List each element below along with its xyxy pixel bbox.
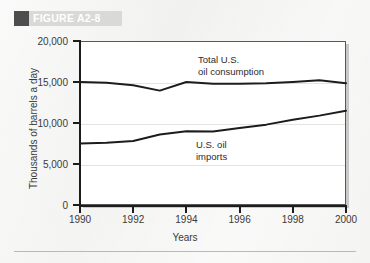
y-axis-tick-label: 0: [62, 200, 68, 211]
y-axis-tick-label: 20,000: [37, 36, 68, 47]
y-axis-tick: [73, 40, 80, 42]
x-axis-tick: [132, 207, 134, 213]
x-axis-title: Years: [0, 232, 370, 243]
y-axis-tick-label: 15,000: [37, 77, 68, 88]
chart-container: 05,00010,00015,00020,000 199019921994199…: [0, 0, 370, 263]
y-axis-title: Thousands of barrels a day: [28, 49, 39, 209]
x-axis-tick-label: 2000: [335, 214, 357, 225]
y-axis-tick-label: 5,000: [43, 159, 68, 170]
x-axis-tick-label: 1992: [122, 214, 144, 225]
series-label-consumption: Total U.S. oil consumption: [198, 54, 264, 77]
x-axis-tick-label: 1998: [282, 214, 304, 225]
series-label-imports: U.S. oil imports: [196, 139, 227, 162]
x-axis-tick: [185, 207, 187, 213]
series-line: [80, 80, 346, 90]
x-axis-tick-label: 1996: [228, 214, 250, 225]
x-axis-tick-label: 1994: [175, 214, 197, 225]
y-axis-tick: [73, 163, 80, 165]
x-axis-tick: [239, 207, 241, 213]
x-axis-tick: [292, 207, 294, 213]
x-axis-tick: [345, 207, 347, 213]
x-axis-line: [79, 205, 347, 207]
x-axis-tick: [79, 207, 81, 213]
y-axis-tick: [73, 81, 80, 83]
y-axis-tick-label: 10,000: [37, 118, 68, 129]
x-axis-tick-label: 1990: [69, 214, 91, 225]
bottom-divider: [14, 251, 356, 252]
y-axis-tick: [73, 204, 80, 206]
y-axis-tick: [73, 122, 80, 124]
